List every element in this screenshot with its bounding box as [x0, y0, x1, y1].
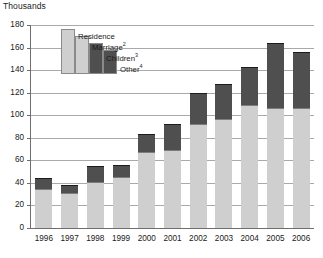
y-axis-tick-mark: [27, 115, 31, 116]
bar-column: [267, 25, 284, 228]
y-axis-tick-mark: [27, 93, 31, 94]
legend-label-residence: Residence: [78, 29, 115, 41]
bar-segment-residence: [164, 183, 181, 228]
x-axis-tick-label: 2000: [133, 234, 161, 243]
y-axis-tick-label: 140: [0, 66, 24, 74]
bar-segment-children: [267, 45, 284, 108]
x-axis-tick-label: 2006: [287, 234, 315, 243]
bar-segment-children: [87, 167, 104, 182]
y-axis-tick-label: 0: [0, 224, 24, 232]
chart-axis-unit-title: Thousands: [3, 1, 46, 11]
bar-segment-residence: [87, 201, 104, 228]
bar-segment-children: [215, 85, 232, 119]
bar-column: [190, 25, 207, 228]
legend-label-children: Children3: [106, 51, 138, 63]
bar-segment-residence: [293, 139, 310, 228]
x-axis-tick-label: 1997: [56, 234, 84, 243]
y-axis-tick-label: 80: [0, 134, 24, 142]
x-axis-tick-label: 2001: [159, 234, 187, 243]
bar-segment-children: [190, 94, 207, 124]
y-axis-tick-mark: [27, 205, 31, 206]
x-axis-tick-label: 1996: [30, 234, 58, 243]
bar-segment-marriage: [190, 124, 207, 169]
y-axis-tick-label: 120: [0, 89, 24, 97]
bar-segment-residence: [215, 166, 232, 228]
bar-segment-marriage: [35, 189, 52, 204]
bar-segment-marriage: [293, 108, 310, 138]
bar-segment-other: [164, 124, 181, 125]
bar-segment-other: [241, 67, 258, 68]
bar-segment-children: [241, 68, 258, 105]
x-axis-tick-label: 2004: [236, 234, 264, 243]
bar-segment-other: [138, 134, 155, 135]
bar-segment-children: [113, 166, 130, 177]
y-axis-tick-mark: [27, 228, 31, 229]
bar-segment-other: [190, 93, 207, 94]
y-axis-tick-mark: [27, 48, 31, 49]
gridline: [31, 228, 314, 229]
bar-segment-marriage: [87, 182, 104, 201]
x-axis-tick-label: 1999: [107, 234, 135, 243]
bar-column: [215, 25, 232, 228]
y-axis-tick-label: 60: [0, 156, 24, 164]
x-axis-tick-label: 2005: [261, 234, 289, 243]
y-axis-tick-label: 20: [0, 201, 24, 209]
bar-segment-residence: [113, 199, 130, 228]
bar-segment-marriage: [164, 150, 181, 183]
y-axis-tick-label: 160: [0, 44, 24, 52]
bar-segment-residence: [61, 207, 78, 228]
bar-segment-other: [113, 165, 130, 166]
x-axis-tick-label: 2003: [210, 234, 238, 243]
bar-segment-marriage: [138, 152, 155, 184]
bar-segment-children: [293, 53, 310, 108]
bar-segment-children: [35, 180, 52, 189]
bar-column: [293, 25, 310, 228]
bar-segment-children: [138, 136, 155, 153]
bar-segment-residence: [267, 139, 284, 228]
y-axis-tick-mark: [27, 160, 31, 161]
bar-segment-marriage: [215, 119, 232, 166]
y-axis-tick-mark: [27, 138, 31, 139]
bar-segment-residence: [138, 184, 155, 228]
bar-segment-marriage: [241, 105, 258, 161]
bar-segment-children: [61, 186, 78, 193]
legend-swatch-marriage: [75, 36, 89, 74]
bar-segment-marriage: [61, 193, 78, 207]
bar-segment-other: [215, 84, 232, 85]
y-axis-tick-mark: [27, 70, 31, 71]
y-axis-tick-label: 180: [0, 21, 24, 29]
y-axis-tick-mark: [27, 25, 31, 26]
legend-label-marriage: Marriage2: [92, 40, 126, 52]
x-axis-tick-label: 2002: [184, 234, 212, 243]
bar-segment-other: [35, 178, 52, 179]
stacked-bar-chart: Thousands 180160140120100806040200 19961…: [0, 0, 323, 258]
bar-segment-children: [164, 125, 181, 150]
legend-swatch-residence: [61, 29, 75, 74]
bar-column: [35, 25, 52, 228]
y-axis-tick-label: 40: [0, 179, 24, 187]
bar-segment-residence: [241, 161, 258, 228]
bar-segment-marriage: [267, 108, 284, 138]
bar-segment-other: [61, 185, 78, 186]
bar-column: [241, 25, 258, 228]
bar-segment-other: [293, 52, 310, 53]
legend-label-other: Other4: [120, 62, 143, 74]
bar-segment-residence: [35, 203, 52, 228]
bar-segment-other: [267, 43, 284, 45]
x-axis-tick-label: 1998: [81, 234, 109, 243]
y-axis-tick-mark: [27, 183, 31, 184]
chart-legend: Residence Marriage2 Children3 Other4: [61, 29, 171, 74]
y-axis-tick-label: 100: [0, 111, 24, 119]
bar-segment-other: [87, 166, 104, 167]
bar-segment-residence: [190, 169, 207, 228]
bar-segment-marriage: [113, 177, 130, 198]
